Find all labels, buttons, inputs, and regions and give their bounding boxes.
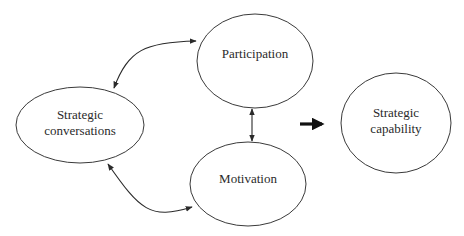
node-label-line: Strategic bbox=[57, 107, 103, 122]
node-strategic-capability: Strategic capability bbox=[341, 73, 451, 173]
connector-conversations-participation bbox=[114, 41, 196, 88]
node-label-line: Participation bbox=[222, 46, 289, 61]
node-label-line: Motivation bbox=[219, 171, 277, 186]
diagram-canvas: Strategic conversations Participation Mo… bbox=[0, 0, 464, 236]
node-motivation: Motivation bbox=[190, 142, 306, 226]
connector-conversations-motivation bbox=[108, 164, 192, 212]
node-shape bbox=[197, 14, 313, 108]
node-strategic-conversations: Strategic conversations bbox=[16, 87, 144, 163]
node-label-line: capability bbox=[370, 121, 422, 136]
node-label-line: Strategic bbox=[373, 105, 419, 120]
node-participation: Participation bbox=[197, 14, 313, 108]
node-label-line: conversations bbox=[44, 123, 115, 138]
